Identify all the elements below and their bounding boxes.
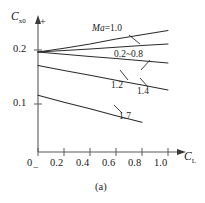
series-label-ma-value: =1.0 bbox=[105, 23, 122, 33]
y-tick-label-0.1: 0.1 bbox=[13, 98, 26, 109]
x-axis-title: CL bbox=[184, 151, 196, 165]
series-label-ma-1.2: 1.2 bbox=[111, 81, 123, 91]
x-axis-title-subscript: L bbox=[192, 157, 196, 165]
x-tick-label-0: 0 bbox=[27, 158, 32, 169]
figure-caption: (a) bbox=[95, 182, 107, 193]
curve-ma-0.2-0.8 bbox=[38, 44, 168, 52]
y-axis-title-subscript: x0 bbox=[19, 17, 26, 25]
positive-sign-label: + bbox=[40, 17, 46, 27]
series-label-ma-1.7: 1.7 bbox=[119, 112, 131, 122]
x-tick-label-0.2: 0.2 bbox=[50, 158, 63, 169]
x-axis-title-symbol: C bbox=[184, 150, 192, 162]
series-label-ma-1.0: Ma=1.0 bbox=[92, 24, 122, 34]
series-label-ma-prefix: Ma bbox=[92, 23, 105, 33]
y-tick-label-0.2: 0.2 bbox=[13, 44, 26, 55]
x-tick-label-0.6: 0.6 bbox=[102, 158, 115, 169]
x-tick-label-0.4: 0.4 bbox=[76, 158, 89, 169]
negative-sign-label: − bbox=[33, 163, 39, 173]
series-label-ma-1.4: 1.4 bbox=[137, 87, 149, 97]
y-axis-title: Cx0 bbox=[11, 11, 26, 25]
figure-panel: Cx0 CL + − 0.2 0.1 0 0.2 0.4 0.6 0.8 1.0… bbox=[0, 0, 205, 203]
leader-ma-1.2 bbox=[120, 70, 128, 80]
x-tick-label-0.8: 0.8 bbox=[128, 158, 141, 169]
x-tick-label-1.0: 1.0 bbox=[154, 158, 167, 169]
y-axis-title-symbol: C bbox=[11, 10, 19, 22]
series-label-ma-0.2-0.8: 0.2~0.8 bbox=[114, 50, 143, 60]
curve-ma-1.0 bbox=[38, 31, 168, 53]
